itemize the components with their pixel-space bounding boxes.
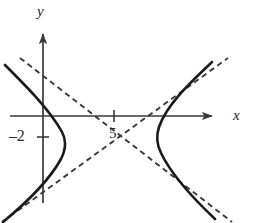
graph-canvas [0,0,253,223]
y-tick-label-neg2: –2 [9,128,24,144]
asymptote-negative-slope-line [20,58,232,222]
x-tick-label-5: 5 [109,126,117,141]
hyperbola-figure: y x –2 5 [0,0,253,223]
x-axis-label: x [233,108,240,123]
asymptotes-group [2,58,232,222]
axes-group [10,34,212,203]
hyperbola-right-branch [157,62,215,219]
y-axis-label: y [37,4,44,19]
